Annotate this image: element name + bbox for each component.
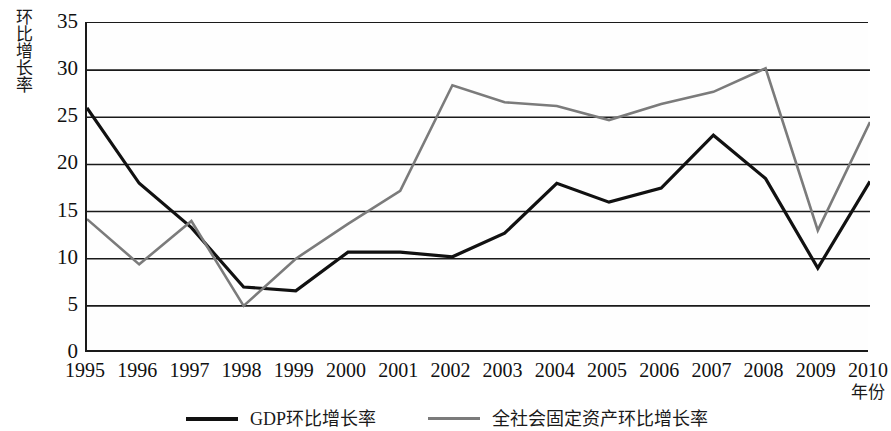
x-axis-tick-label: 2009 — [788, 357, 844, 383]
x-axis-tick-label: 2008 — [736, 357, 792, 383]
x-axis-tick-labels: 1995199619971998199920002001200220032004… — [0, 357, 891, 387]
x-axis-tick-label: 2007 — [683, 357, 739, 383]
line-chart: 环比增长率 05101520253035 1995199619971998199… — [0, 0, 891, 431]
gridlines — [87, 70, 870, 306]
x-axis-tick-label: 2010 — [840, 357, 891, 383]
series-line — [87, 108, 870, 291]
x-axis-tick-label: 2005 — [579, 357, 635, 383]
y-axis-tick-label: 30 — [36, 58, 78, 79]
x-axis-tick-label: 1999 — [266, 357, 322, 383]
legend-label: 全社会固定资产环比增长率 — [492, 409, 708, 429]
x-axis-tick-label: 2004 — [527, 357, 583, 383]
y-axis-tick-label: 25 — [36, 105, 78, 126]
x-axis-tick-label: 1995 — [57, 357, 113, 383]
y-axis-tick-label: 35 — [36, 11, 78, 32]
series-line — [87, 68, 870, 306]
x-axis-tick-label: 2001 — [370, 357, 426, 383]
x-axis-tick-label: 2006 — [631, 357, 687, 383]
y-axis-title: 环比增长率 — [6, 8, 32, 93]
x-axis-title: 年份 — [851, 383, 885, 402]
series-lines — [87, 68, 870, 306]
y-axis-tick-label: 10 — [36, 247, 78, 268]
y-axis-tick-label: 5 — [36, 294, 78, 315]
x-axis-tick-label: 1998 — [214, 357, 270, 383]
plot-svg — [87, 23, 870, 353]
x-axis-tick-label: 2002 — [422, 357, 478, 383]
x-axis-tick-label: 2000 — [318, 357, 374, 383]
legend-item: GDP环比增长率 — [186, 409, 376, 429]
legend-item: 全社会固定资产环比增长率 — [428, 409, 708, 429]
legend-label: GDP环比增长率 — [250, 409, 376, 429]
x-axis-tick-label: 2003 — [475, 357, 531, 383]
x-axis-tick-label: 1997 — [161, 357, 217, 383]
y-axis-tick-label: 15 — [36, 200, 78, 221]
legend-line-swatch — [428, 417, 480, 420]
legend-line-swatch — [186, 417, 238, 421]
x-axis-tick-label: 1996 — [109, 357, 165, 383]
plot-area — [85, 22, 868, 352]
y-axis-tick-label: 20 — [36, 152, 78, 173]
chart-legend: GDP环比增长率全社会固定资产环比增长率 — [0, 406, 891, 431]
